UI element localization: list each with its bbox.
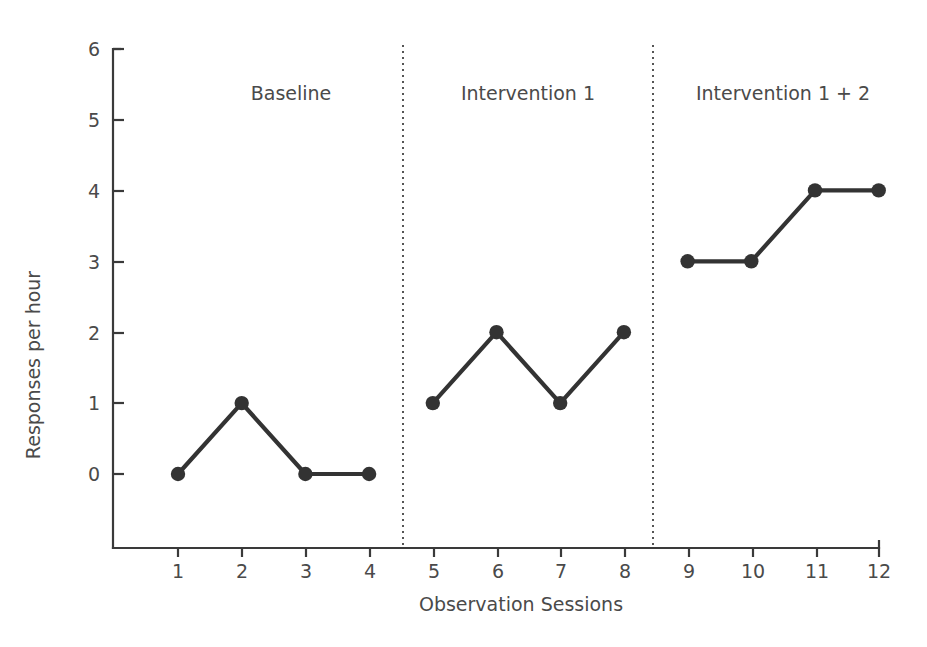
x-tick-label-8: 8 [619, 560, 631, 582]
y-tick-label-1: 1 [88, 392, 100, 414]
data-point-session-4 [362, 467, 376, 481]
y-axis-title: Responses per hour [22, 271, 44, 460]
x-tick-label-6: 6 [492, 560, 504, 582]
data-point-session-11 [808, 183, 822, 197]
x-tick-label-10: 10 [741, 560, 765, 582]
data-point-session-8 [617, 325, 631, 339]
x-tick-label-12: 12 [867, 560, 891, 582]
phase-label-baseline: Baseline [251, 82, 332, 104]
data-point-session-5 [426, 396, 440, 410]
chart-figure: 6 5 4 3 2 1 0 Responses per hour [0, 0, 927, 647]
phase-label-intervention-1: Intervention 1 [461, 82, 595, 104]
y-tick-label-6: 6 [88, 38, 100, 60]
phase-label-intervention-1-plus-2: Intervention 1 + 2 [696, 82, 870, 104]
y-tick-label-3: 3 [88, 251, 100, 273]
x-axis-title: Observation Sessions [419, 593, 623, 615]
y-tick-label-4: 4 [88, 180, 100, 202]
y-tick-label-2: 2 [88, 322, 100, 344]
data-point-session-3 [298, 467, 312, 481]
data-point-session-9 [680, 254, 694, 268]
data-point-session-12 [872, 183, 886, 197]
x-tick-label-5: 5 [428, 560, 440, 582]
x-tick-label-11: 11 [805, 560, 829, 582]
data-point-session-7 [553, 396, 567, 410]
y-tick-label-0: 0 [88, 463, 100, 485]
x-tick-label-9: 9 [683, 560, 695, 582]
x-tick-label-3: 3 [300, 560, 312, 582]
x-tick-label-2: 2 [236, 560, 248, 582]
data-point-session-6 [489, 325, 503, 339]
data-point-session-2 [235, 396, 249, 410]
data-point-session-10 [744, 254, 758, 268]
x-tick-label-7: 7 [555, 560, 567, 582]
data-point-session-1 [171, 467, 185, 481]
x-tick-label-4: 4 [364, 560, 376, 582]
y-tick-label-5: 5 [88, 109, 100, 131]
single-case-design-line-chart: 6 5 4 3 2 1 0 Responses per hour [0, 0, 927, 647]
x-tick-label-1: 1 [172, 560, 184, 582]
